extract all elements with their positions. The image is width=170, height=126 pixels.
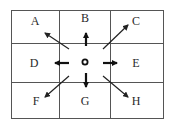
label-f: F [33, 94, 40, 108]
center-circle-icon [82, 59, 87, 64]
arrow-southwest-icon [45, 76, 69, 97]
label-a: A [31, 14, 40, 28]
label-e: E [132, 56, 139, 70]
arrow-northwest-icon [45, 33, 69, 49]
label-g: G [81, 94, 90, 108]
direction-grid-diagram: A B C D E F G H [0, 0, 170, 126]
arrow-northeast-icon [103, 25, 128, 49]
label-h: H [132, 94, 141, 108]
arrow-southeast-icon [103, 76, 128, 97]
label-d: D [30, 56, 39, 70]
label-c: C [132, 14, 140, 28]
label-b: B [81, 11, 89, 25]
